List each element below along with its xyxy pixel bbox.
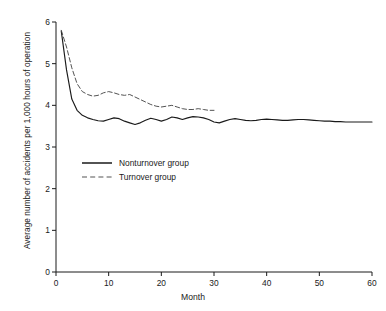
y-tick-label: 0 xyxy=(28,267,50,277)
y-tick-marks xyxy=(52,22,56,272)
x-tick-label: 30 xyxy=(209,278,218,288)
data-series-group xyxy=(61,30,372,124)
chart-plot-area xyxy=(0,0,386,311)
x-axis-label: Month xyxy=(0,292,386,302)
y-tick-label: 4 xyxy=(28,100,50,110)
y-tick-label: 2 xyxy=(28,184,50,194)
x-tick-label: 0 xyxy=(54,278,59,288)
y-tick-label: 5 xyxy=(28,59,50,69)
y-tick-label: 3 xyxy=(28,142,50,152)
x-tick-label: 20 xyxy=(157,278,166,288)
series-line-turnover-group xyxy=(61,30,214,110)
legend-label: Nonturnover group xyxy=(119,158,189,168)
y-tick-label: 1 xyxy=(28,225,50,235)
axis-group xyxy=(56,22,372,272)
x-tick-label: 60 xyxy=(367,278,376,288)
series-line-nonturnover-group xyxy=(61,31,372,124)
legend-label: Turnover group xyxy=(119,172,176,182)
x-tick-marks xyxy=(56,272,372,276)
legend-line-samples xyxy=(82,163,112,177)
x-tick-label: 50 xyxy=(315,278,324,288)
chart-figure: Average number of accidents per 1,000 ho… xyxy=(0,0,386,311)
y-tick-label: 6 xyxy=(28,17,50,27)
x-tick-label: 40 xyxy=(262,278,271,288)
x-tick-label: 10 xyxy=(104,278,113,288)
